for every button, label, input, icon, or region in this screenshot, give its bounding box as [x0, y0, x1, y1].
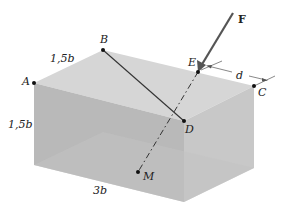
label-d: D: [184, 123, 194, 136]
label-m: M: [142, 170, 155, 183]
box-diagram: A B C D E M F d 1,5b 1,5b 3b: [0, 0, 292, 215]
point-c: [252, 84, 256, 88]
label-height: 1,5b: [8, 118, 33, 131]
label-distance: d: [236, 69, 243, 82]
label-top-depth: 1,5b: [50, 52, 75, 65]
force-arrow-shaft: [201, 13, 233, 66]
label-c: C: [258, 86, 267, 99]
label-force: F: [238, 13, 246, 26]
dim-arrow-left: [208, 66, 232, 72]
label-b: B: [99, 33, 108, 46]
point-m: [136, 170, 140, 174]
point-e: [196, 70, 200, 74]
point-a: [32, 81, 36, 85]
dim-arrowhead-left: [206, 65, 212, 69]
label-length: 3b: [93, 184, 107, 197]
label-a: A: [21, 75, 30, 88]
point-b: [101, 48, 105, 52]
label-e: E: [187, 56, 196, 69]
